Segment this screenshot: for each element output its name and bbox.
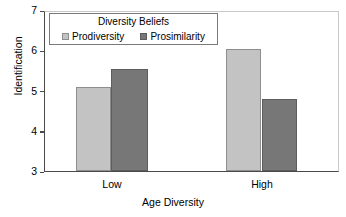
legend-title: Diversity Beliefs [50,15,217,29]
y-tick-label-3: 3 [31,165,37,178]
y-axis: 7 6 5 4 3 Identification [0,0,44,217]
bar-high-prosimilarity [262,99,297,171]
legend-label-prosimilarity: Prosimilarity [150,31,204,43]
x-axis-title: Age Diversity [0,196,346,208]
legend-item-prosimilarity: Prosimilarity [140,31,204,43]
legend-swatch-icon [62,33,69,40]
y-tick-label-4: 4 [31,125,37,138]
y-tick-label-7: 7 [31,4,37,17]
legend: Diversity Beliefs Prodiversity Prosimila… [49,13,218,45]
legend-item-prodiversity: Prodiversity [62,31,124,43]
y-axis-title: Identification [12,1,24,131]
bar-high-prodiversity [226,49,261,171]
bar-low-prodiversity [76,87,111,171]
legend-items: Prodiversity Prosimilarity [50,29,217,44]
legend-swatch-icon [140,33,147,40]
legend-label-prodiversity: Prodiversity [72,31,124,43]
x-tick-label-high: High [222,178,302,190]
bar-chart-figure: 7 6 5 4 3 Identification Diversity Belie… [0,0,346,217]
bar-low-prosimilarity [111,69,148,171]
y-tick-label-5: 5 [31,85,37,98]
y-tick-label-6: 6 [31,44,37,57]
x-tick-label-low: Low [72,178,152,190]
